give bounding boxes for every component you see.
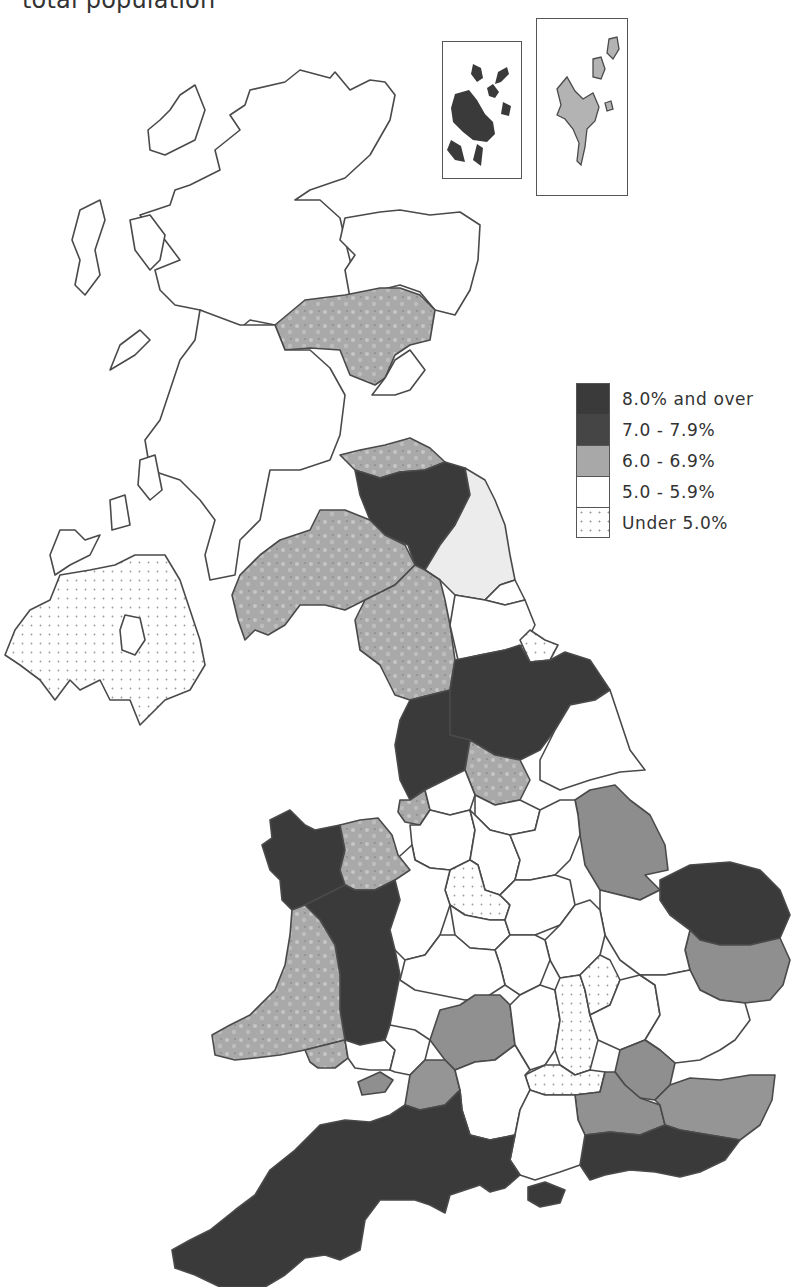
legend-label: 6.0 - 6.9% <box>622 451 715 471</box>
legend-swatch-7 <box>576 414 610 445</box>
orkney-islands <box>443 42 521 178</box>
legend-item-8-plus: 8.0% and over <box>576 383 754 414</box>
map-legend: 8.0% and over 7.0 - 7.9% 6.0 - 6.9% 5.0 … <box>576 383 754 538</box>
uk-choropleth-map <box>0 0 803 1287</box>
legend-item-under-5: Under 5.0% <box>576 507 754 538</box>
legend-swatch-under-5 <box>576 507 610 538</box>
region-skye-coast <box>110 215 165 370</box>
region-mid-glamorgan <box>345 1040 395 1070</box>
region-arran-islay <box>110 455 162 530</box>
legend-swatch-8-plus <box>576 383 610 414</box>
legend-swatch-6 <box>576 445 610 476</box>
region-northern-ireland <box>5 555 205 725</box>
inset-shetland <box>536 18 628 196</box>
inset-orkney <box>442 41 522 179</box>
legend-label: 8.0% and over <box>622 389 754 409</box>
region-south-glamorgan <box>358 1072 393 1095</box>
legend-label: 5.0 - 5.9% <box>622 482 715 502</box>
legend-label: 7.0 - 7.9% <box>622 420 715 440</box>
legend-label: Under 5.0% <box>622 513 728 533</box>
region-isle-of-wight <box>528 1182 565 1207</box>
shetland-islands <box>537 19 627 195</box>
region-dyfed <box>212 905 345 1060</box>
region-berkshire <box>525 1065 605 1095</box>
region-lincolnshire <box>575 785 668 900</box>
region-donegal-coast <box>50 530 100 575</box>
legend-item-7: 7.0 - 7.9% <box>576 414 754 445</box>
legend-swatch-5 <box>576 476 610 507</box>
legend-item-6: 6.0 - 6.9% <box>576 445 754 476</box>
legend-item-5: 5.0 - 5.9% <box>576 476 754 507</box>
